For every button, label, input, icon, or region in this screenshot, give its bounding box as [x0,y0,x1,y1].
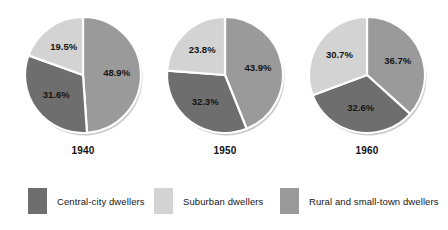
year-label-1940: 1940 [8,145,158,156]
pie-slice-value-label: 30.7% [326,49,353,60]
legend-label-rural: Rural and small-town dwellers [309,196,439,207]
legend-swatch-suburban [154,188,173,214]
pie-svg-1950: 43.9%32.3%23.8% [164,14,286,136]
pie-slice-value-label: 31.6% [43,89,70,100]
year-label-1950: 1950 [150,145,300,156]
legend-label-suburban: Suburban dwellers [183,196,263,207]
pie-charts-row: 48.9%31.6%19.5% 1940 43.9%32.3%23.8% 195… [0,0,448,178]
pie-chart-figure: 48.9%31.6%19.5% 1940 43.9%32.3%23.8% 195… [0,0,448,230]
pie-graphic-1950: 43.9%32.3%23.8% [164,14,286,136]
chart-legend: Central-city dwellers Suburban dwellers … [0,186,448,226]
pie-svg-1940: 48.9%31.6%19.5% [22,14,144,136]
pie-graphic-1940: 48.9%31.6%19.5% [22,14,144,136]
pie-svg-1960: 36.7%32.6%30.7% [306,14,428,136]
legend-swatch-central-city [28,188,47,214]
year-label-1960: 1960 [292,145,442,156]
pie-slices-1950 [167,17,285,136]
pie-slice-value-label: 36.7% [384,55,411,66]
pie-slices-1960 [309,17,426,136]
legend-item-central-city: Central-city dwellers [28,186,145,216]
legend-swatch-rural [280,188,299,214]
pie-slice-value-label: 19.5% [50,41,77,52]
pie-slice-value-label: 48.9% [103,67,130,78]
legend-item-suburban: Suburban dwellers [154,186,263,216]
pie-slice-value-label: 43.9% [245,62,272,73]
pie-chart-1940: 48.9%31.6%19.5% 1940 [8,0,158,178]
legend-item-rural: Rural and small-town dwellers [280,186,439,216]
pie-slice-value-label: 23.8% [189,44,216,55]
pie-slice-value-label: 32.6% [347,102,374,113]
legend-label-central-city: Central-city dwellers [57,196,145,207]
pie-slice-value-label: 32.3% [192,96,219,107]
pie-chart-1960: 36.7%32.6%30.7% 1960 [292,0,442,178]
pie-chart-1950: 43.9%32.3%23.8% 1950 [150,0,300,178]
pie-graphic-1960: 36.7%32.6%30.7% [306,14,428,136]
